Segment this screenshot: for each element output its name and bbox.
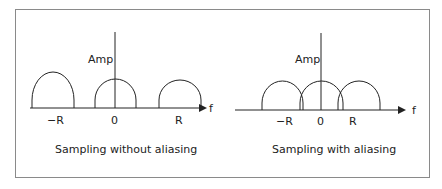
amp-label-right: Amp [295,53,320,66]
tick-zero-right: 0 [317,115,324,128]
tick-zero-left: 0 [111,114,118,127]
arrow-head-icon [199,104,207,112]
f-label-right: f [412,104,417,117]
arrow-head-icon [398,106,406,114]
spectrum-lobe-minus-r [32,72,74,108]
caption-without-aliasing: Sampling without aliasing [55,143,197,156]
spectrum-lobe-minus-r [262,81,303,110]
f-label-left: f [209,102,214,115]
amp-label-left: Amp [88,53,113,66]
caption-with-aliasing: Sampling with aliasing [272,143,396,156]
sampling-diagrams: Amp f −R 0 R Sampling without aliasing A… [0,0,442,189]
tick-minus-r-left: −R [47,114,64,127]
spectrum-lobe-plus-r [338,81,380,110]
tick-minus-r-right: −R [276,115,293,128]
diagram-without-aliasing [30,32,207,112]
diagram-with-aliasing [235,33,406,114]
tick-r-right: R [349,115,357,128]
tick-r-left: R [175,114,183,127]
spectrum-lobe-plus-r [159,80,201,108]
